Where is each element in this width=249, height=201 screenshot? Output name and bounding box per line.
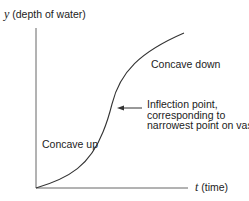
x-axis-label: t (time) <box>195 182 228 193</box>
inflection-arrow <box>117 106 142 111</box>
depth-vs-time-diagram: y (depth of water) t (time) Concave down… <box>0 0 249 201</box>
inflection-point-annotation: Inflection point, corresponding to narro… <box>147 99 249 131</box>
concave-down-annotation: Concave down <box>151 59 220 70</box>
arrowhead-icon <box>117 106 124 111</box>
concave-up-annotation: Concave up <box>42 139 98 150</box>
inflection-line-1: Inflection point, <box>147 99 249 110</box>
inflection-line-3: narrowest point on vase <box>147 120 249 131</box>
x-axis-description: (time) <box>198 181 228 193</box>
y-axis-label: y (depth of water) <box>4 9 86 20</box>
y-axis-description: (depth of water) <box>9 8 85 20</box>
